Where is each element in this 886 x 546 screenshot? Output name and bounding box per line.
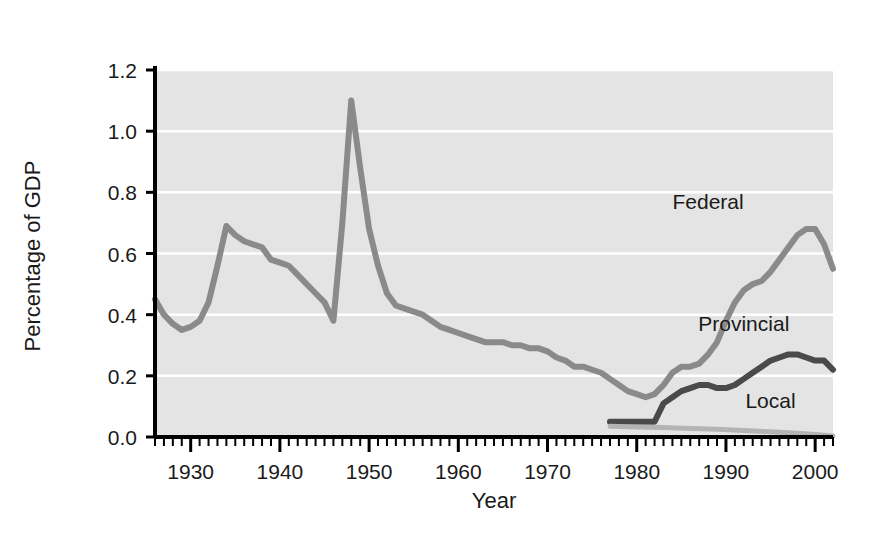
y-tick-label: 0.8 [108, 181, 137, 204]
gdp-line-chart: 0.00.20.40.60.81.01.2 193019401950196019… [0, 0, 886, 546]
x-tick-label: 1930 [167, 460, 214, 483]
x-tick-label: 1990 [703, 460, 750, 483]
chart-figure: 0.00.20.40.60.81.01.2 193019401950196019… [0, 0, 886, 546]
x-tick-label: 1950 [346, 460, 393, 483]
x-tick-label: 1940 [257, 460, 304, 483]
x-axis-title: Year [472, 488, 516, 513]
y-tick-label: 1.2 [108, 59, 137, 82]
x-tick-label: 1970 [524, 460, 571, 483]
y-tick-label: 0.2 [108, 365, 137, 388]
y-tick-label: 0.6 [108, 243, 137, 266]
y-axis-title: Percentage of GDP [20, 161, 45, 352]
x-tick-label: 1980 [613, 460, 660, 483]
x-tick-label: 2000 [792, 460, 839, 483]
y-tick-label: 1.0 [108, 120, 137, 143]
series-label-local: Local [745, 389, 795, 412]
series-label-federal: Federal [673, 190, 744, 213]
x-tick-label: 1960 [435, 460, 482, 483]
series-label-provincial: Provincial [698, 312, 789, 335]
y-tick-label: 0.4 [108, 304, 138, 327]
y-tick-label: 0.0 [108, 426, 137, 449]
